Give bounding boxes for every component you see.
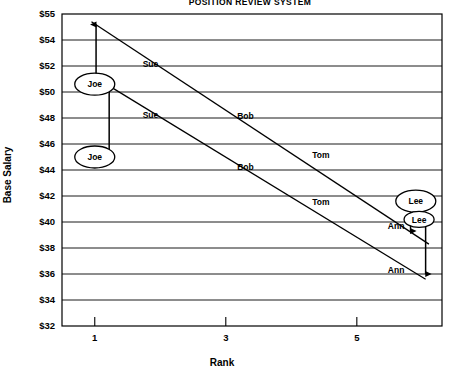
data-point-label: Tom [312, 197, 330, 207]
x-axis-ticks: 135 [92, 317, 360, 343]
x-axis-tick-label: 3 [223, 332, 228, 343]
callout-label-joe-lower: Joe [87, 152, 102, 162]
employee-callouts: JoeJoeLeeLee [75, 73, 436, 227]
y-axis-tick-label: $36 [39, 268, 55, 279]
x-axis-title: Rank [210, 357, 235, 368]
data-point-label: Bob [237, 162, 254, 172]
y-axis-tick-label: $42 [39, 190, 55, 201]
y-axis-tick-label: $48 [39, 112, 55, 123]
data-point-label: Sue [143, 110, 159, 120]
y-axis-tick-label: $32 [39, 320, 55, 331]
y-axis-tick-label: $54 [39, 34, 56, 45]
data-point-label: Sue [143, 59, 159, 69]
position-review-system-chart: POSITION REVIEW SYSTEM Base Salary Rank … [0, 0, 458, 375]
y-axis-tick-label: $52 [39, 60, 55, 71]
y-axis-tick-label: $46 [39, 138, 55, 149]
chart-container: POSITION REVIEW SYSTEM Base Salary Rank … [0, 0, 458, 375]
y-axis-title: Base Salary [2, 146, 13, 203]
x-axis-tick-label: 5 [354, 332, 360, 343]
series-line-lower-line [91, 75, 425, 279]
data-point-label: Ann [388, 221, 405, 231]
series-line-upper-line [91, 22, 428, 244]
y-axis-tick-label: $50 [39, 86, 55, 97]
callout-label-lee-lower: Lee [412, 215, 427, 225]
y-axis-tick-label: $34 [39, 294, 56, 305]
data-series: SueBobTomAnnSueBobTomAnn [91, 22, 428, 279]
data-point-label: Ann [388, 265, 405, 275]
data-point-label: Bob [237, 111, 254, 121]
callout-label-joe-upper: Joe [87, 79, 102, 89]
x-axis-tick-label: 1 [92, 332, 98, 343]
y-axis-tick-label: $40 [39, 216, 55, 227]
callout-label-lee-upper: Lee [408, 196, 423, 206]
y-axis-tick-label: $44 [39, 164, 56, 175]
y-axis-tick-label: $38 [39, 242, 55, 253]
y-axis-tick-labels: $55$54$52$50$48$46$44$42$40$38$36$34$32 [39, 8, 56, 331]
data-point-label: Tom [312, 150, 330, 160]
chart-title: POSITION REVIEW SYSTEM [189, 0, 312, 7]
y-axis-tick-label: $55 [39, 8, 56, 19]
